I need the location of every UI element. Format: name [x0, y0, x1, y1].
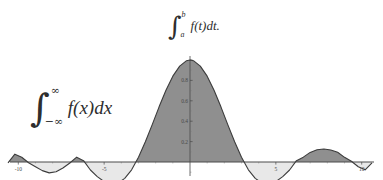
lower-limit: a: [181, 31, 185, 39]
x-tick-label: 5: [274, 166, 277, 172]
definite-integral-annotation: ∫baf(t)dt.: [168, 12, 220, 38]
x-tick-label: -5: [102, 166, 107, 172]
y-tick-label: 0.2: [176, 139, 188, 145]
y-tick-label: 0.8: [176, 77, 188, 83]
x-tick-label: -10: [15, 166, 22, 172]
y-tick-label: 0.4: [176, 118, 188, 124]
y-tick-label: 0.6: [176, 98, 188, 104]
x-tick-label: 10: [359, 166, 365, 172]
improper-integral-annotation: ∫∞−∞f(x)dx: [30, 88, 112, 126]
upper-limit: ∞: [51, 85, 60, 96]
integrand: f(t)dt.: [191, 19, 220, 32]
lower-limit: −∞: [45, 116, 63, 127]
integral-symbol-icon: ∫: [168, 13, 182, 39]
upper-limit: b: [182, 11, 186, 19]
integrand: f(x)dx: [68, 98, 112, 117]
